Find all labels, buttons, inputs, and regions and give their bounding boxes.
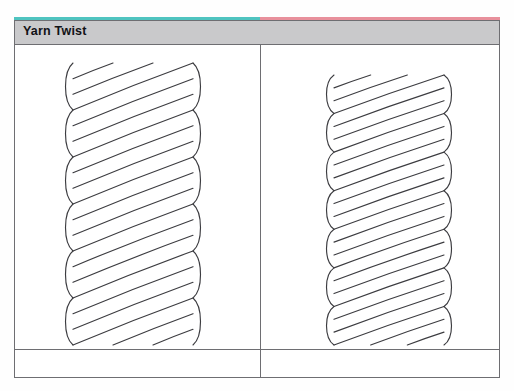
left-diagram-cell xyxy=(15,45,260,349)
yarn-twist-figure: Yarn Twist xyxy=(14,20,500,378)
figure-body-row xyxy=(15,45,499,349)
figure-caption-row xyxy=(15,349,499,378)
page-title: Yarn Twist xyxy=(23,24,87,38)
right-caption-cell xyxy=(260,350,499,378)
figure-header-row: Yarn Twist xyxy=(15,21,499,45)
page-background: Yarn Twist xyxy=(0,0,514,391)
left-caption-cell xyxy=(15,350,260,378)
rope-diagram-right xyxy=(261,45,499,349)
right-diagram-cell xyxy=(260,45,499,349)
rope-diagram-left xyxy=(15,45,260,349)
